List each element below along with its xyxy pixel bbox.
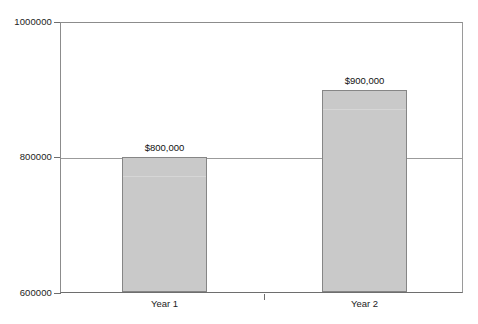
x-axis-label-year-2: Year 2 — [322, 298, 407, 310]
bar-year-1[interactable] — [122, 157, 207, 292]
bar-value-label-year-2: $900,000 — [322, 75, 407, 86]
bar-year-1-highlight — [123, 176, 206, 177]
x-axis-tick-midpoint — [264, 294, 265, 300]
y-axis-label-1000000: 1000000 — [0, 17, 52, 27]
bar-year-2-highlight — [323, 109, 406, 110]
y-axis-label-600000: 600000 — [0, 288, 52, 298]
plot-area — [60, 22, 463, 293]
y-axis-tick-600000 — [54, 293, 61, 294]
x-axis-label-year-1: Year 1 — [122, 298, 207, 310]
bar-chart: 1000000 800000 600000 $800,000 $900,000 … — [0, 0, 478, 324]
y-axis-label-800000: 800000 — [0, 152, 52, 162]
bar-value-label-year-1: $800,000 — [122, 142, 207, 153]
bar-year-2[interactable] — [322, 90, 407, 292]
